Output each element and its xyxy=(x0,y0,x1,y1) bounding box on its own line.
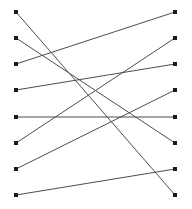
edges-layer xyxy=(16,12,175,195)
graph-node-left[interactable] xyxy=(14,141,18,145)
graph-node-right[interactable] xyxy=(173,115,177,119)
graph-node-left[interactable] xyxy=(14,10,18,14)
graph-node-left[interactable] xyxy=(14,115,18,119)
graph-edge xyxy=(16,169,175,195)
graph-canvas xyxy=(0,0,192,209)
graph-node-left[interactable] xyxy=(14,62,18,66)
graph-node-right[interactable] xyxy=(173,193,177,197)
graph-node-right[interactable] xyxy=(173,36,177,40)
graph-edge xyxy=(16,12,175,195)
graph-node-right[interactable] xyxy=(173,141,177,145)
graph-node-right[interactable] xyxy=(173,88,177,92)
graph-node-left[interactable] xyxy=(14,88,18,92)
graph-node-left[interactable] xyxy=(14,36,18,40)
graph-edge xyxy=(16,90,175,169)
graph-node-right[interactable] xyxy=(173,167,177,171)
graph-node-left[interactable] xyxy=(14,193,18,197)
graph-node-right[interactable] xyxy=(173,62,177,66)
graph-edge xyxy=(16,12,175,64)
graph-node-right[interactable] xyxy=(173,10,177,14)
graph-edge xyxy=(16,64,175,90)
bipartite-graph-diagram xyxy=(0,0,192,209)
graph-node-left[interactable] xyxy=(14,167,18,171)
